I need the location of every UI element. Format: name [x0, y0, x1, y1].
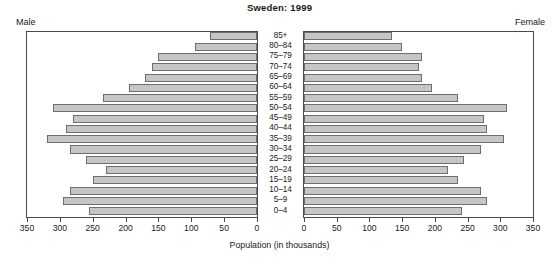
tick-label-100: 100	[176, 223, 206, 233]
bar-row	[27, 207, 257, 217]
bar-row	[304, 32, 533, 42]
bar-row	[27, 196, 257, 206]
tick-label-300: 300	[45, 223, 75, 233]
age-label-70–74: 70–74	[258, 63, 303, 71]
bar-row	[27, 42, 257, 52]
bar-female-0–4	[304, 207, 462, 215]
tick-mark	[27, 218, 28, 222]
age-label-50–54: 50–54	[258, 104, 303, 112]
bar-female-85+	[304, 32, 392, 40]
bar-row	[304, 145, 533, 155]
x-axis-title: Population (in thousands)	[0, 240, 559, 250]
tick-mark	[257, 218, 258, 222]
bar-female-5–9	[304, 197, 487, 205]
bar-male-55–59	[103, 94, 257, 102]
bar-male-65–69	[145, 74, 257, 82]
tick-label-200: 200	[111, 223, 141, 233]
bar-male-75–79	[158, 53, 257, 61]
age-label-40–44: 40–44	[258, 124, 303, 132]
age-label-60–64: 60–64	[258, 83, 303, 91]
tick-label-100: 100	[354, 223, 384, 233]
bar-row	[304, 176, 533, 186]
male-bar-group	[27, 32, 257, 217]
bar-row	[27, 94, 257, 104]
bar-row	[304, 114, 533, 124]
age-label-55–59: 55–59	[258, 94, 303, 102]
bar-female-15–19	[304, 176, 458, 184]
tick-label-150: 150	[143, 223, 173, 233]
bar-female-30–34	[304, 145, 481, 153]
bar-row	[304, 196, 533, 206]
age-label-30–34: 30–34	[258, 145, 303, 153]
tick-mark	[60, 218, 61, 222]
tick-mark	[468, 218, 469, 222]
bar-row	[27, 145, 257, 155]
bar-female-70–74	[304, 63, 419, 71]
bar-female-55–59	[304, 94, 458, 102]
male-panel-label: Male	[16, 17, 36, 27]
bar-female-25–29	[304, 156, 464, 164]
tick-mark	[369, 218, 370, 222]
bar-row	[304, 83, 533, 93]
tick-label-300: 300	[485, 223, 515, 233]
tick-label-50: 50	[209, 223, 239, 233]
bar-male-40–44	[66, 125, 257, 133]
bar-female-60–64	[304, 84, 432, 92]
bar-row	[304, 186, 533, 196]
age-label-45–49: 45–49	[258, 114, 303, 122]
bar-male-50–54	[53, 104, 257, 112]
bar-male-80–84	[195, 43, 257, 51]
bar-male-70–74	[152, 63, 257, 71]
tick-mark	[337, 218, 338, 222]
population-pyramid-chart: Sweden: 1999 Male Female 85+80–8475–7970…	[0, 0, 559, 272]
bar-female-10–14	[304, 187, 481, 195]
bar-row	[304, 166, 533, 176]
bar-male-5–9	[63, 197, 257, 205]
bar-female-65–69	[304, 74, 422, 82]
age-label-65–69: 65–69	[258, 73, 303, 81]
tick-mark	[533, 218, 534, 222]
bar-row	[27, 176, 257, 186]
bar-row	[27, 73, 257, 83]
age-label-10–14: 10–14	[258, 186, 303, 194]
tick-label-0: 0	[242, 223, 272, 233]
bar-female-50–54	[304, 104, 507, 112]
bar-row	[27, 155, 257, 165]
age-group-axis: 85+80–8475–7970–7465–6960–6455–5950–5445…	[258, 31, 303, 218]
female-plot-panel	[303, 31, 534, 218]
bar-male-60–64	[129, 84, 257, 92]
bar-male-85+	[210, 32, 257, 40]
bar-row	[304, 63, 533, 73]
bar-row	[27, 135, 257, 145]
bar-row	[27, 53, 257, 63]
bar-row	[304, 135, 533, 145]
bar-row	[304, 42, 533, 52]
age-label-0–4: 0–4	[258, 207, 303, 215]
bar-female-45–49	[304, 115, 484, 123]
chart-title: Sweden: 1999	[0, 2, 559, 13]
bar-row	[27, 32, 257, 42]
tick-mark	[158, 218, 159, 222]
bar-row	[27, 63, 257, 73]
bar-row	[304, 207, 533, 217]
tick-label-50: 50	[322, 223, 352, 233]
tick-label-250: 250	[78, 223, 108, 233]
bar-male-35–39	[47, 135, 257, 143]
age-label-85+: 85+	[258, 32, 303, 40]
bar-row	[304, 155, 533, 165]
bar-row	[27, 125, 257, 135]
bar-row	[304, 125, 533, 135]
tick-mark	[304, 218, 305, 222]
female-bar-group	[304, 32, 533, 217]
bar-male-30–34	[70, 145, 257, 153]
tick-label-250: 250	[453, 223, 483, 233]
male-plot-panel	[26, 31, 258, 218]
bar-row	[304, 73, 533, 83]
tick-mark	[224, 218, 225, 222]
female-panel-label: Female	[515, 17, 545, 27]
bar-female-80–84	[304, 43, 402, 51]
tick-mark	[435, 218, 436, 222]
tick-mark	[500, 218, 501, 222]
bar-row	[304, 53, 533, 63]
age-label-20–24: 20–24	[258, 166, 303, 174]
